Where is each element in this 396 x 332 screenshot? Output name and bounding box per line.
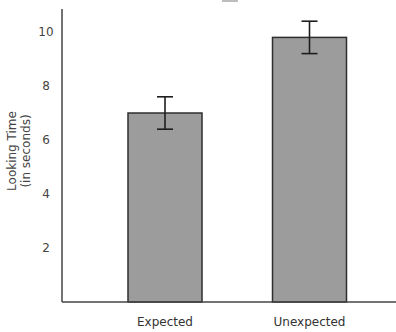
y-tick-label: 8	[42, 79, 50, 93]
y-tick-label: 2	[42, 241, 50, 255]
x-category-label: Expected	[137, 315, 193, 329]
y-tick-label: 4	[42, 187, 50, 201]
bar-expected	[128, 113, 202, 302]
x-category-label: Unexpected	[274, 315, 346, 329]
y-axis-title-line: (in seconds)	[19, 114, 33, 187]
y-axis-title-line: Looking Time	[5, 111, 19, 191]
y-axis-title: Looking Time(in seconds)	[5, 111, 33, 191]
y-axis-ticks: 246810	[38, 25, 53, 255]
cropped-title-artifact	[222, 0, 238, 2]
bar-chart: Looking Time(in seconds) 246810 Expected…	[0, 0, 396, 332]
y-tick-label: 10	[38, 25, 53, 39]
bars	[128, 21, 347, 302]
x-axis-categories: ExpectedUnexpected	[137, 315, 345, 329]
bar-unexpected	[273, 37, 347, 302]
y-tick-label: 6	[42, 133, 50, 147]
